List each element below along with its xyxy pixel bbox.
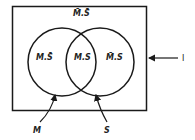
set-s-circle bbox=[66, 28, 134, 96]
region-s-only-label: M̄.S bbox=[106, 52, 123, 62]
venn-diagram: M̄.S̄ M.S̄ M.S M̄.S I M S bbox=[0, 0, 195, 140]
set-m-arrow bbox=[40, 95, 55, 122]
set-s-label: S bbox=[104, 126, 110, 135]
region-outside-label: M̄.S̄ bbox=[73, 8, 90, 18]
set-m-label: M bbox=[33, 126, 41, 135]
universe-label: I bbox=[182, 54, 184, 63]
set-s-arrow bbox=[96, 95, 107, 122]
set-m-circle bbox=[28, 28, 96, 96]
region-intersection-label: M.S bbox=[74, 53, 91, 62]
region-m-only-label: M.S̄ bbox=[36, 52, 53, 62]
